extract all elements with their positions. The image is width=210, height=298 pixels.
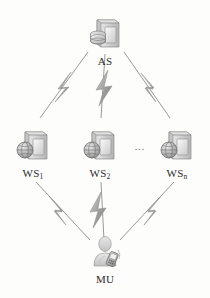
server-database-icon (85, 14, 125, 54)
network-topology-diagram: AS WS1 (0, 0, 210, 298)
node-label-ws1: WS1 (1, 167, 65, 179)
node-label-wsn: WSn (145, 167, 209, 179)
web-server-globe-icon (157, 126, 197, 166)
ellipsis-marker: ... (135, 142, 146, 152)
node-wsn[interactable]: WSn (145, 126, 209, 179)
lightning-bolt-icon (49, 196, 66, 225)
web-server-globe-icon (13, 126, 53, 166)
lightning-bolt-icon (141, 73, 156, 102)
node-label-ws2: WS2 (68, 167, 132, 179)
mobile-user-icon (85, 232, 125, 272)
node-label-as: AS (73, 55, 137, 67)
node-ws2[interactable]: WS2 (68, 126, 132, 179)
node-ws1[interactable]: WS1 (1, 126, 65, 179)
lightning-bolt-icon (90, 192, 106, 228)
node-mu[interactable]: MU (73, 232, 137, 285)
node-as[interactable]: AS (73, 14, 137, 67)
web-server-globe-icon (80, 126, 120, 166)
lightning-bolt-icon (144, 196, 161, 225)
node-label-mu: MU (73, 273, 137, 285)
